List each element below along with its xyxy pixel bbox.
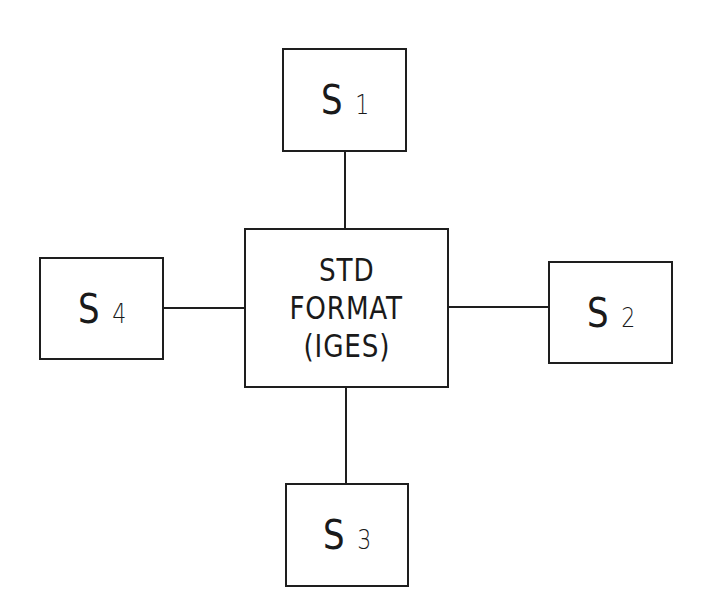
system-letter: S [320,80,342,120]
system-letter: S [77,289,99,329]
system-letter: S [586,293,608,333]
standard-format-label: STD FORMAT (IGES) [277,251,415,365]
system-label-s2: S 2 [585,293,637,333]
center-line-format: FORMAT [290,289,403,327]
connector-s1-center [344,150,346,229]
system-box-s4: S 4 [39,257,164,360]
system-label-s1: S 1 [319,80,371,120]
system-letter: S [323,515,345,555]
system-number: 1 [355,92,369,118]
center-line-iges: (IGES) [303,327,390,365]
system-box-s1: S 1 [282,48,407,152]
center-line-std: STD [319,251,374,289]
system-number: 4 [112,301,126,327]
standard-format-box: STD FORMAT (IGES) [244,228,449,388]
system-box-s2: S 2 [548,261,673,364]
system-label-s4: S 4 [76,289,128,329]
connector-s2-center [447,306,549,308]
system-number: 3 [358,527,372,553]
system-box-s3: S 3 [285,483,409,587]
system-label-s3: S 3 [321,515,373,555]
system-number: 2 [621,305,635,331]
connector-s3-center [345,386,347,484]
connector-s4-center [162,307,245,309]
